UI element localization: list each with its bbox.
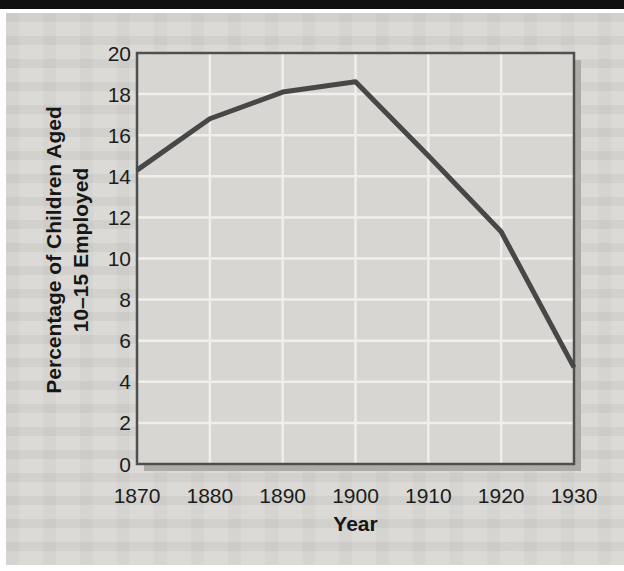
- y-tick-label-2: 2: [119, 411, 131, 434]
- y-axis-title-line2: 10–15 Employed: [69, 168, 92, 333]
- y-tick-label-10: 10: [108, 247, 131, 270]
- y-tick-label-14: 14: [108, 165, 132, 188]
- x-tick-label-1870: 1870: [114, 484, 161, 507]
- x-tick-label-1880: 1880: [186, 484, 233, 507]
- x-axis-title: Year: [333, 512, 377, 535]
- y-tick-label-8: 8: [119, 288, 131, 311]
- y-tick-label-0: 0: [119, 453, 131, 476]
- x-tick-label-1930: 1930: [551, 484, 598, 507]
- x-tick-label-1900: 1900: [332, 484, 379, 507]
- chart-figure: 0246810121416182018701880189019001910192…: [0, 0, 624, 571]
- scanned-page: 0246810121416182018701880189019001910192…: [0, 0, 624, 571]
- x-tick-label-1890: 1890: [259, 484, 306, 507]
- y-tick-label-20: 20: [108, 42, 131, 65]
- y-tick-label-4: 4: [119, 370, 131, 393]
- y-tick-label-18: 18: [108, 83, 131, 106]
- x-tick-label-1910: 1910: [405, 484, 452, 507]
- y-tick-label-12: 12: [108, 206, 131, 229]
- y-tick-label-6: 6: [119, 329, 131, 352]
- x-tick-label-1920: 1920: [478, 484, 525, 507]
- y-tick-label-16: 16: [108, 124, 131, 147]
- y-axis-title-line1: Percentage of Children Aged: [42, 106, 65, 393]
